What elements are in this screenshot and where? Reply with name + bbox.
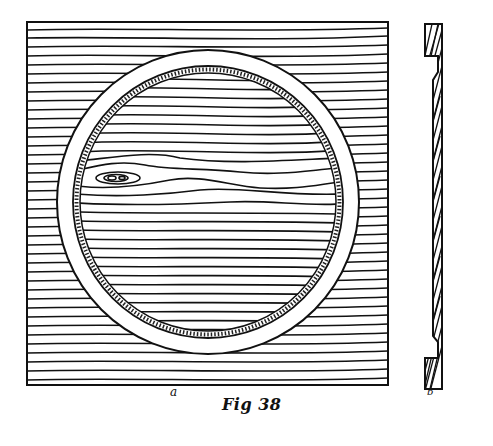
section-view-profile bbox=[420, 20, 442, 430]
front-view-label: a bbox=[170, 385, 177, 399]
engraving-figure bbox=[0, 0, 493, 446]
front-view-panel bbox=[27, 22, 388, 385]
figure-caption: Fig 38 bbox=[222, 395, 281, 414]
section-view-label: b bbox=[427, 386, 433, 397]
